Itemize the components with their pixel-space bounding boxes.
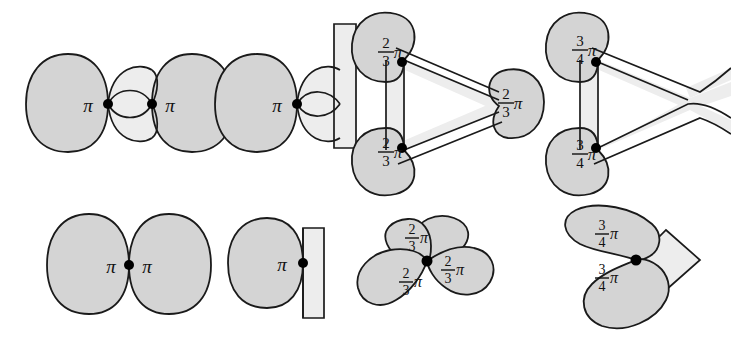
panel-8-vertex xyxy=(631,255,642,266)
panel-1-label-left: π xyxy=(83,95,93,116)
pi-glyph-icon: π xyxy=(610,269,619,286)
panel-5-label-right: π xyxy=(142,256,152,277)
pi-glyph-icon: π xyxy=(456,261,465,278)
panel-7-vertex xyxy=(422,256,433,267)
pi-glyph-icon: π xyxy=(394,43,403,62)
svg-text:2: 2 xyxy=(382,35,390,51)
panel-2-label: π xyxy=(272,95,282,116)
svg-text:3: 3 xyxy=(502,104,510,120)
svg-text:3: 3 xyxy=(599,262,606,277)
panel-2-vertex xyxy=(292,99,302,109)
svg-text:2: 2 xyxy=(382,135,390,151)
pi-glyph-icon: π xyxy=(588,145,597,164)
svg-text:3: 3 xyxy=(576,33,584,49)
svg-text:3: 3 xyxy=(403,283,410,298)
pi-glyph-icon: π xyxy=(414,273,423,290)
panel-5-vertex xyxy=(124,260,134,270)
svg-text:2: 2 xyxy=(502,86,510,102)
panel-6-lobe xyxy=(228,218,303,308)
panel-6-wall xyxy=(303,228,324,318)
pi-glyph-icon: π xyxy=(588,41,597,60)
panel-5-label-left: π xyxy=(106,256,116,277)
svg-text:4: 4 xyxy=(599,235,606,250)
svg-text:2: 2 xyxy=(409,222,416,237)
svg-text:4: 4 xyxy=(576,155,584,171)
svg-text:3: 3 xyxy=(599,218,606,233)
svg-text:3: 3 xyxy=(445,271,452,286)
panel-1-vertex-right xyxy=(147,99,157,109)
panel-5-left-lobe xyxy=(47,214,129,314)
panel-1-vertex-left xyxy=(103,99,113,109)
svg-text:2: 2 xyxy=(403,266,410,281)
svg-text:3: 3 xyxy=(382,153,390,169)
figure-board: π π π xyxy=(0,0,731,342)
panel-1-left-bubble xyxy=(26,54,108,152)
svg-text:2: 2 xyxy=(445,254,452,269)
svg-text:3: 3 xyxy=(382,53,390,69)
panel-1-two-bubbles-with-film: π π xyxy=(26,54,234,152)
pi-glyph-icon: π xyxy=(610,225,619,242)
svg-text:3: 3 xyxy=(576,137,584,153)
panel-1-label-right: π xyxy=(165,95,175,116)
svg-text:4: 4 xyxy=(599,279,606,294)
panel-6-vertex xyxy=(298,258,308,268)
svg-text:4: 4 xyxy=(576,51,584,67)
soap-film-junction-figure: π π π xyxy=(0,0,731,342)
svg-text:3: 3 xyxy=(409,239,416,254)
pi-glyph-icon: π xyxy=(394,143,403,162)
panel-2-bubble xyxy=(215,54,297,152)
pi-glyph-icon: π xyxy=(514,94,523,113)
pi-glyph-icon: π xyxy=(420,229,429,246)
panel-6-label: π xyxy=(277,254,287,275)
